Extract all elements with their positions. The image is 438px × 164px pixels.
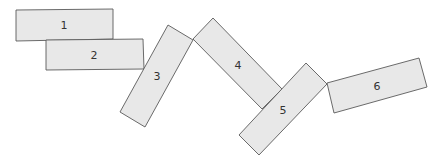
label-4: 4 [235,59,242,72]
label-1: 1 [61,19,68,32]
shape-4: 4 [193,18,282,109]
label-2: 2 [91,49,98,62]
shape-6: 6 [327,58,427,113]
shape-2: 2 [46,39,144,70]
label-6: 6 [374,80,381,93]
shape-1: 1 [16,9,113,41]
label-5: 5 [280,104,287,117]
rectangle-chain-diagram: 1 2 3 4 5 6 [0,0,438,164]
label-3: 3 [154,70,161,83]
